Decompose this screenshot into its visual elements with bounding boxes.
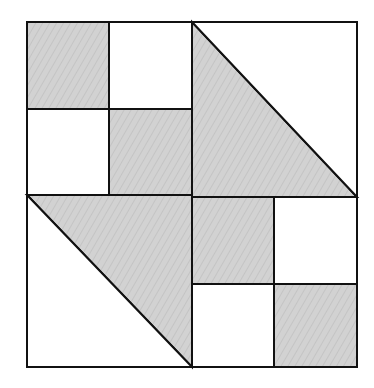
blank-rect-br-bl [192,284,274,367]
blank-rect-br-tr [274,197,357,284]
blank-rect-tl-tr [109,22,192,109]
shape-group [27,22,357,367]
shaded-rect-tl-br [109,109,192,195]
quilt-diagram [0,0,374,388]
blank-rect-tl-bl [27,109,109,195]
shaded-rect-br-tl [192,197,274,284]
shaded-rect-tl-tl [27,22,109,109]
shaded-rect-br-br [274,284,357,367]
